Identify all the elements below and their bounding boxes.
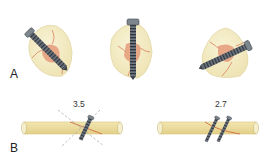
screw-fixation-figure: A 3.5 2.7 B (0, 0, 268, 164)
screw-size-label-3-5: 3.5 (73, 99, 85, 109)
bone-fragment-3 (202, 28, 248, 78)
panel-label-a: A (10, 67, 18, 81)
long-bone-right (158, 122, 259, 134)
long-bone-left (22, 122, 123, 134)
screw-size-label-2-7: 2.7 (215, 99, 227, 109)
panel-label-b: B (10, 141, 18, 155)
